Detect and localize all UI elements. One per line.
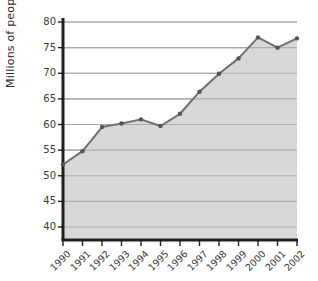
- data-point-1991: [80, 149, 84, 153]
- y-tick-label-55: 55: [26, 144, 56, 155]
- data-point-1995: [158, 124, 162, 128]
- data-point-1994: [139, 117, 143, 121]
- data-point-2002: [295, 36, 299, 40]
- data-point-2001: [275, 45, 279, 49]
- y-tick-label-75: 75: [26, 42, 56, 53]
- y-tick-label-40: 40: [26, 221, 56, 232]
- data-point-1993: [119, 121, 123, 125]
- data-point-2000: [256, 35, 260, 39]
- data-point-1997: [197, 90, 201, 94]
- area-polygon: [63, 37, 297, 240]
- y-tick-label-65: 65: [26, 93, 56, 104]
- y-tick-label-80: 80: [26, 16, 56, 27]
- y-tick-label-50: 50: [26, 170, 56, 181]
- data-point-1996: [178, 112, 182, 116]
- y-tick-label-45: 45: [26, 195, 56, 206]
- data-point-1998: [217, 72, 221, 76]
- y-tick-label-60: 60: [26, 119, 56, 130]
- y-tick-label-70: 70: [26, 67, 56, 78]
- data-point-1999: [236, 56, 240, 60]
- area-chart: Millions of people 404550556065707580 19…: [0, 0, 318, 281]
- data-point-1990: [61, 162, 65, 166]
- data-point-1992: [100, 125, 104, 129]
